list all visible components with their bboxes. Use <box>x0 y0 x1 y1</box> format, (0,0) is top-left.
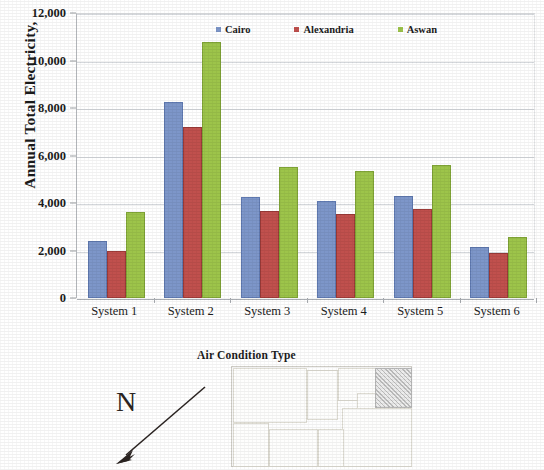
legend-label: Cairo <box>225 24 250 35</box>
x-tick-label: System 6 <box>474 304 520 319</box>
x-tick-mark <box>307 298 308 303</box>
bar <box>394 196 413 298</box>
bar <box>260 211 279 299</box>
bar <box>107 251 126 298</box>
y-tick-label: 2,000 <box>38 243 66 258</box>
bar <box>164 102 183 298</box>
gridline <box>77 299 534 300</box>
bar <box>183 127 202 298</box>
legend-swatch-icon <box>398 27 403 32</box>
bar-group <box>317 13 372 298</box>
y-tick-label: 8,000 <box>38 101 66 116</box>
building-floor-plan <box>231 366 412 467</box>
y-tick-label: 4,000 <box>38 196 66 211</box>
bar-group <box>241 13 296 298</box>
floorplan-room <box>307 370 338 420</box>
bar <box>489 253 508 298</box>
bar-group <box>470 13 525 298</box>
x-axis-labels: System 1System 2System 3System 4System 5… <box>76 304 535 326</box>
chart-legend: CairoAlexandriaAswan <box>216 24 437 35</box>
x-tick-label: System 5 <box>397 304 443 319</box>
north-arrow-icon <box>108 382 220 468</box>
legend-entry: Aswan <box>398 24 437 35</box>
x-tick-label: System 1 <box>91 304 137 319</box>
x-tick-mark <box>154 298 155 303</box>
legend-swatch-icon <box>294 27 299 32</box>
x-tick-mark <box>383 298 384 303</box>
bar <box>470 247 489 298</box>
bar <box>432 165 451 298</box>
bar <box>317 201 336 298</box>
bar-groups <box>77 13 534 298</box>
floorplan-room <box>269 429 318 467</box>
legend-swatch-icon <box>216 27 221 32</box>
bar <box>241 197 260 298</box>
legend-entry: Cairo <box>216 24 250 35</box>
north-arrow-indicator: N <box>108 382 220 468</box>
floorplan-room <box>318 429 344 467</box>
floorplan-room <box>342 408 412 467</box>
floorplan-shaded-zone <box>375 368 412 408</box>
bar <box>279 167 298 298</box>
x-tick-label: System 4 <box>321 304 367 319</box>
y-tick-label: 6,000 <box>38 148 66 163</box>
bar-group <box>164 13 219 298</box>
bar-group <box>394 13 449 298</box>
legend-label: Aswan <box>407 24 437 35</box>
legend-entry: Alexandria <box>294 24 353 35</box>
bar <box>336 214 355 298</box>
bar <box>126 212 145 298</box>
bar <box>413 209 432 298</box>
bar <box>508 237 527 298</box>
floorplan-room <box>233 368 307 423</box>
y-tick-label: 10,000 <box>32 53 66 68</box>
bar <box>202 42 221 298</box>
x-tick-mark <box>460 298 461 303</box>
bar <box>355 171 374 298</box>
y-axis-ticks: 02,0004,0006,0008,00010,00012,000 <box>0 13 76 298</box>
x-tick-mark <box>230 298 231 303</box>
x-tick-mark <box>536 298 537 303</box>
bar <box>88 241 107 298</box>
floorplan-room <box>233 423 269 467</box>
y-tick-label: 12,000 <box>32 6 66 21</box>
legend-label: Alexandria <box>303 24 353 35</box>
x-tick-label: System 2 <box>168 304 214 319</box>
electricity-bar-chart: Annual Total Electricity, 02,0004,0006,0… <box>0 0 544 336</box>
y-tick-label: 0 <box>60 291 66 306</box>
plot-area <box>76 13 535 298</box>
x-tick-label: System 3 <box>244 304 290 319</box>
floorplan-caption: Air Condition Type <box>197 349 296 361</box>
bar-group <box>88 13 143 298</box>
